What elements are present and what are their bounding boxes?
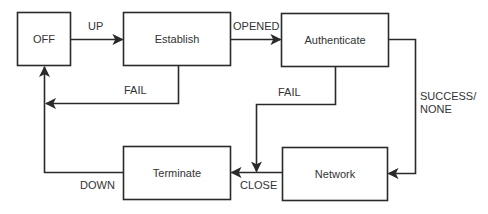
label-success-line2: NONE bbox=[420, 103, 452, 115]
state-terminate-label: Terminate bbox=[153, 167, 201, 179]
state-network-label: Network bbox=[315, 168, 356, 180]
state-authenticate: Authenticate bbox=[282, 14, 389, 67]
label-up: UP bbox=[88, 20, 103, 32]
transition-establish-fail: FAIL bbox=[46, 66, 179, 104]
state-authenticate-label: Authenticate bbox=[304, 34, 365, 46]
state-off-label: OFF bbox=[33, 33, 55, 45]
arrow-down bbox=[45, 67, 124, 173]
state-diagram: OFF Establish Authenticate Terminate Net… bbox=[0, 0, 488, 214]
transition-up: UP bbox=[71, 20, 123, 40]
label-success-line1: SUCCESS/ bbox=[420, 90, 477, 102]
label-close: CLOSE bbox=[240, 179, 277, 191]
transition-opened: OPENED bbox=[231, 20, 281, 40]
label-down: DOWN bbox=[80, 179, 115, 191]
transition-close: CLOSE bbox=[232, 173, 283, 192]
label-auth-fail: FAIL bbox=[278, 86, 301, 98]
state-establish: Establish bbox=[124, 13, 231, 66]
arrow-establish-fail bbox=[46, 66, 179, 104]
state-establish-label: Establish bbox=[155, 33, 200, 45]
arrow-success bbox=[389, 40, 416, 174]
transition-success: SUCCESS/ NONE bbox=[389, 40, 478, 174]
state-network: Network bbox=[283, 148, 388, 201]
state-off: OFF bbox=[18, 13, 71, 66]
label-opened: OPENED bbox=[233, 20, 280, 32]
transition-down: DOWN bbox=[45, 67, 124, 191]
state-terminate: Terminate bbox=[124, 147, 231, 200]
label-establish-fail: FAIL bbox=[124, 84, 147, 96]
